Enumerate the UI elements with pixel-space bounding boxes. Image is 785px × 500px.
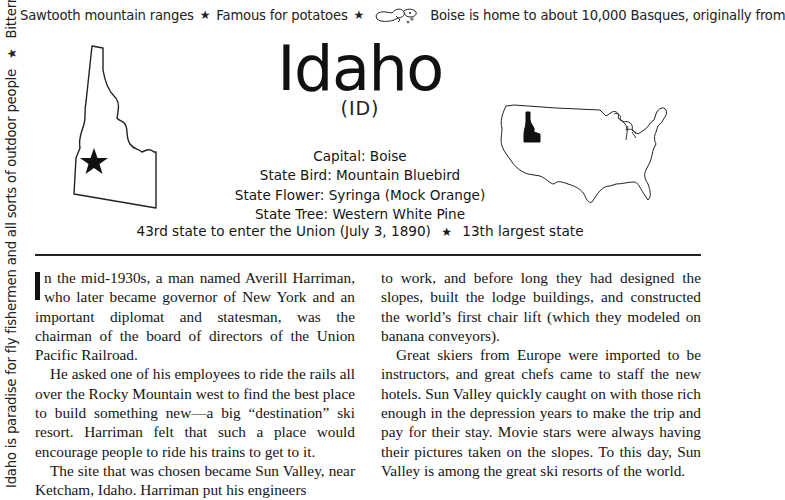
border-fact-bitterroot: Bitterroot and — [4, 0, 19, 38]
article-left-column: n the mid-1930s, a man named Averill Har… — [35, 268, 355, 500]
article-paragraph: n the mid-1930s, a man named Averill Har… — [35, 268, 355, 364]
star-icon: ★ — [200, 8, 211, 22]
border-fact-fishing: Idaho is paradise for fly fishermen and … — [4, 69, 19, 488]
article-paragraph: to work, and before long they had design… — [381, 268, 701, 345]
border-fact-basques: Boise is home to about 10,000 Basques, o… — [430, 8, 785, 23]
fact-size-rank: 13th largest state — [462, 223, 583, 239]
article-paragraph: He asked one of his employees to ride th… — [35, 364, 355, 460]
page-title: Idaho — [200, 36, 520, 102]
state-abbreviation: (ID) — [200, 97, 520, 119]
top-border-text: Sawtooth mountain ranges ★ Famous for po… — [20, 4, 720, 26]
union-facts: 43rd state to enter the Union (July 3, 1… — [60, 223, 660, 239]
article-paragraph: The site that was chosen became Sun Vall… — [35, 461, 355, 500]
section-divider — [35, 254, 701, 256]
left-border: Idaho is paradise for fly fishermen and … — [0, 0, 24, 492]
left-border-text: Idaho is paradise for fly fishermen and … — [3, 0, 21, 488]
star-icon: ★ — [441, 225, 452, 239]
idaho-highlight — [524, 112, 540, 142]
border-fact-potatoes: Famous for potatoes — [216, 8, 347, 23]
article-right-column: to work, and before long they had design… — [381, 268, 701, 500]
star-icon: ★ — [5, 48, 19, 59]
idaho-outline-path — [74, 46, 156, 208]
fact-statehood: 43rd state to enter the Union (July 3, 1… — [137, 223, 431, 239]
border-fact-sawtooth: Sawtooth mountain ranges — [20, 8, 194, 23]
us-map — [488, 100, 688, 210]
potato-peeler-doodle-icon — [374, 4, 420, 26]
article-body: n the mid-1930s, a man named Averill Har… — [35, 268, 701, 500]
article-paragraph: Great skiers from Europe were imported t… — [381, 345, 701, 480]
capital-star-icon — [80, 148, 108, 174]
star-icon: ★ — [354, 8, 365, 22]
drop-cap-i — [35, 272, 40, 300]
